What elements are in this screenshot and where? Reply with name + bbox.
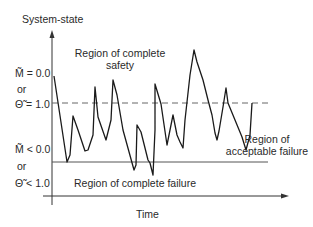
region-complete-safety-line1: Region of complete	[60, 47, 180, 59]
x-axis-arrow-icon	[281, 194, 289, 199]
diagram-canvas	[0, 0, 313, 227]
x-axis-label: Time	[136, 208, 159, 220]
region-complete-safety-label: Region of complete safety	[60, 47, 180, 71]
region-complete-safety-line2: safety	[60, 59, 180, 71]
region-complete-failure-label: Region of complete failure	[74, 177, 196, 189]
upper-m-label: M̃ = 0.0	[15, 67, 50, 79]
region-acceptable-failure-line1: Region of	[222, 133, 312, 145]
lower-m-label: M̃ < 0.0	[15, 143, 50, 155]
region-acceptable-failure-line2: acceptable failure	[222, 145, 312, 157]
upper-theta-label: Θ̃ = 1.0	[15, 98, 50, 110]
y-axis-label: System-state	[22, 13, 83, 25]
lower-theta-label: Θ̃ < 1.0	[15, 177, 50, 189]
y-axis-arrow-icon	[50, 30, 55, 38]
upper-or-label: or	[17, 83, 26, 95]
lower-or-label: or	[17, 160, 26, 172]
region-acceptable-failure-label: Region of acceptable failure	[222, 133, 312, 157]
